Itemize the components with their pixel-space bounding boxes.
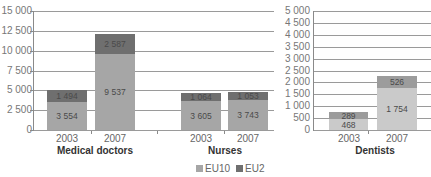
gridline bbox=[34, 11, 274, 12]
x-label: 2003 bbox=[329, 133, 369, 144]
legend-label: EU10 bbox=[205, 163, 230, 174]
y-tickmark bbox=[30, 130, 34, 131]
legend: EU10 EU2 bbox=[196, 163, 270, 174]
y-tick-label: 0 bbox=[0, 125, 32, 135]
bar-segment-eu10: 468 bbox=[329, 119, 368, 130]
x-axis-line bbox=[314, 130, 431, 131]
gridline bbox=[314, 23, 431, 24]
y-tick-label: 2 500 bbox=[270, 66, 310, 76]
bar-segment-eu2: 2 587 bbox=[95, 34, 135, 54]
bar-segment-eu2: 1 053 bbox=[228, 92, 268, 100]
gridline bbox=[314, 59, 431, 60]
group-label-medical-doctors: Medical doctors bbox=[40, 145, 150, 156]
bar-segment-eu10: 9 537 bbox=[95, 54, 135, 130]
bar-segment-eu2: 526 bbox=[377, 76, 417, 88]
gridline bbox=[34, 71, 274, 72]
y-tick-label: 5 000 bbox=[270, 6, 310, 16]
x-label: 2003 bbox=[181, 133, 221, 144]
y-tick-label: 2 000 bbox=[270, 77, 310, 87]
group-label-dentists: Dentists bbox=[340, 145, 410, 156]
bar-segment-eu2: 289 bbox=[329, 112, 368, 119]
bar-segment-eu10: 3 605 bbox=[181, 101, 221, 130]
group-label-nurses: Nurses bbox=[175, 145, 275, 156]
x-tickmark bbox=[91, 131, 92, 134]
y-tick-label: 7 500 bbox=[0, 66, 32, 76]
gridline bbox=[34, 31, 274, 32]
y-tick-label: 1 000 bbox=[270, 101, 310, 111]
y-tick-label: 2 500 bbox=[0, 105, 32, 115]
gridline bbox=[314, 47, 431, 48]
y-tick-label: 12 500 bbox=[0, 26, 32, 36]
x-label: 2003 bbox=[47, 133, 87, 144]
y-tickmark bbox=[30, 110, 34, 111]
bar-segment-eu2: 1 064 bbox=[181, 93, 221, 101]
y-axis-line bbox=[313, 11, 314, 131]
bar-segment-eu10: 3 554 bbox=[47, 102, 87, 130]
y-tick-label: 15 000 bbox=[0, 6, 32, 16]
x-label: 2007 bbox=[377, 133, 417, 144]
y-tickmark bbox=[30, 31, 34, 32]
x-label: 2007 bbox=[95, 133, 135, 144]
y-tick-label: 500 bbox=[270, 113, 310, 123]
x-tickmark bbox=[224, 131, 225, 134]
y-tick-label: 3 500 bbox=[270, 42, 310, 52]
x-label: 2007 bbox=[228, 133, 268, 144]
y-tickmark bbox=[30, 51, 34, 52]
y-tick-label: 1 500 bbox=[270, 89, 310, 99]
y-tick-label: 4 500 bbox=[270, 18, 310, 28]
x-axis-line bbox=[34, 130, 274, 131]
legend-item-eu2: EU2 bbox=[236, 163, 264, 174]
bar-segment-eu10: 1 754 bbox=[377, 88, 417, 130]
legend-swatch-eu10 bbox=[196, 165, 203, 172]
y-tick-label: 3 000 bbox=[270, 54, 310, 64]
gridline bbox=[314, 11, 431, 12]
y-tickmark bbox=[30, 71, 34, 72]
x-tickmark bbox=[157, 131, 158, 134]
legend-item-eu10: EU10 bbox=[196, 163, 230, 174]
gridline bbox=[314, 35, 431, 36]
y-tick-label: 10 000 bbox=[0, 46, 32, 56]
bar-segment-eu10: 3 743 bbox=[228, 100, 268, 130]
gridline bbox=[314, 71, 431, 72]
y-tickmark bbox=[30, 11, 34, 12]
y-tick-label: 0 bbox=[270, 125, 310, 135]
gridline bbox=[34, 51, 274, 52]
legend-label: EU2 bbox=[245, 163, 264, 174]
y-tickmark bbox=[30, 90, 34, 91]
y-tick-label: 5 000 bbox=[0, 85, 32, 95]
bar-segment-eu2: 1 494 bbox=[47, 90, 87, 102]
y-tick-label: 4 000 bbox=[270, 30, 310, 40]
legend-swatch-eu2 bbox=[236, 165, 243, 172]
